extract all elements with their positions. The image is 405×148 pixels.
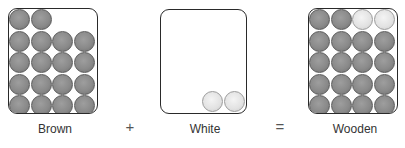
white-label: White [175,122,235,136]
white-ball [374,9,395,30]
brown-ball [352,74,373,95]
brown-ball [374,31,395,52]
brown-ball [309,9,330,30]
brown-ball [31,31,52,52]
brown-ball [52,95,73,114]
brown-ball [309,52,330,73]
brown-ball [331,52,352,73]
brown-ball [309,74,330,95]
brown-ball [352,95,373,114]
brown-ball [309,31,330,52]
brown-ball [352,31,373,52]
brown-ball [352,52,373,73]
equals-operator: = [270,118,290,135]
brown-ball [9,52,30,73]
white-box [160,9,247,114]
brown-label: Brown [20,122,90,136]
brown-ball [52,52,73,73]
brown-ball [31,95,52,114]
brown-ball [74,74,95,95]
brown-ball [331,9,352,30]
brown-box [8,8,98,114]
brown-ball [9,31,30,52]
brown-ball [9,74,30,95]
brown-ball [31,9,52,30]
brown-ball [9,95,30,114]
brown-ball [374,95,395,114]
brown-ball [74,95,95,114]
white-ball [202,91,223,112]
brown-ball [331,31,352,52]
brown-ball [74,31,95,52]
brown-ball [9,9,30,30]
plus-operator: + [120,118,140,135]
white-ball [352,9,373,30]
brown-ball [309,95,330,114]
brown-ball [31,74,52,95]
brown-ball [52,74,73,95]
brown-ball [331,74,352,95]
brown-ball [374,74,395,95]
wooden-box [308,8,398,114]
brown-ball [52,31,73,52]
brown-ball [74,52,95,73]
brown-ball [374,52,395,73]
brown-ball [331,95,352,114]
wooden-label: Wooden [320,122,390,136]
white-ball [224,91,245,112]
brown-ball [31,52,52,73]
